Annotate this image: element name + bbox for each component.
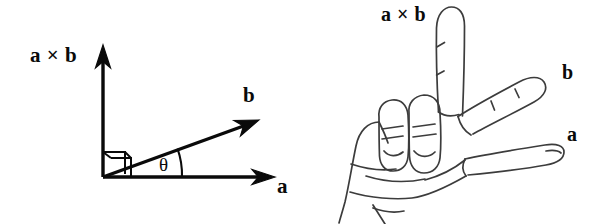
label-hand-vector-b: b [562, 62, 573, 82]
label-vector-a: a [277, 176, 288, 197]
palm-crease-upper [351, 164, 396, 170]
pinky-finger-tip-crease [414, 151, 435, 156]
right-hand-rule-illustration: a × b b a [310, 0, 603, 224]
index-finger-outline [458, 78, 546, 135]
palm-knuckle-crease-left [379, 122, 388, 143]
cross-product-vector-diagram: a × b b a θ [0, 0, 310, 224]
label-angle-theta: θ [159, 155, 168, 174]
label-hand-cross-product: a × b [381, 4, 426, 24]
label-hand-vector-a: a [567, 124, 577, 144]
index-finger-base [458, 117, 471, 136]
theta-arc-icon [178, 149, 183, 177]
index-finger-crease-lower [491, 101, 495, 110]
figure-root: a × b b a θ [0, 0, 603, 224]
thumb-nail-crease [546, 151, 561, 153]
ring-finger-crease-upper [382, 126, 403, 129]
middle-finger-crease-upper [437, 43, 445, 48]
ring-finger-tip-crease [384, 151, 403, 156]
hand-drawing-canvas [310, 0, 603, 224]
middle-finger-outline [436, 7, 464, 116]
label-cross-product-axis: a × b [30, 45, 77, 66]
label-vector-b: b [243, 85, 255, 106]
palm-crease-middle [366, 176, 425, 181]
vector-diagram-canvas [0, 0, 310, 224]
thumb-outline [465, 144, 564, 175]
index-finger-crease-upper [515, 89, 519, 98]
middle-finger-base [439, 112, 460, 116]
middle-finger-crease-lower [437, 71, 444, 75]
pinky-finger-crease-lower [413, 134, 436, 137]
pinky-finger-crease-upper [413, 124, 435, 127]
palm-crease-to-thumb [425, 160, 465, 180]
ring-finger-folded-outline [379, 100, 409, 171]
palm-bottom-outline [350, 176, 466, 199]
